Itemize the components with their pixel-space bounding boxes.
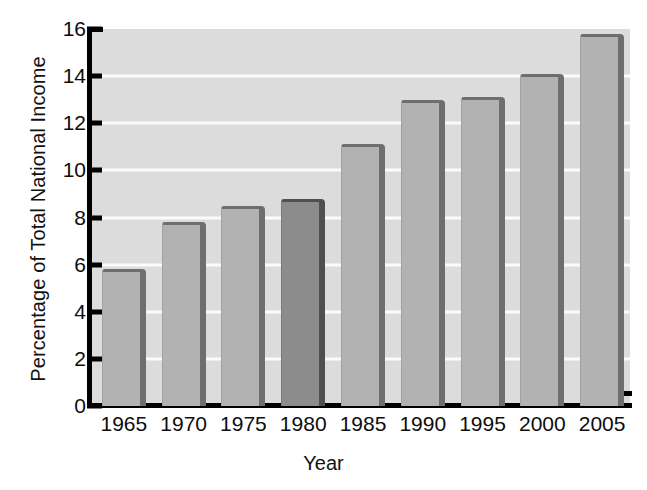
bar-1965 (102, 269, 146, 406)
x-axis-tick-label: 2005 (562, 412, 642, 436)
bar-chart-figure: Percentage of Total National Income 0246… (0, 0, 647, 490)
x-axis-title: Year (0, 452, 647, 475)
y-axis-tick-label: 8 (34, 206, 86, 230)
y-axis-tick-mark (87, 309, 102, 314)
y-axis-tick-mark (87, 74, 102, 79)
y-axis-tick-label: 6 (34, 253, 86, 277)
bar-1975 (221, 206, 265, 406)
bar-1990 (401, 100, 445, 406)
bar-1995 (461, 97, 505, 406)
y-axis-tick-label: 12 (34, 111, 86, 135)
bar-1980 (281, 199, 325, 406)
y-axis-tick-label: 14 (34, 64, 86, 88)
x-axis-tick-labels: 196519701975198019851990199520002005 (0, 412, 647, 442)
bar-1985 (341, 144, 385, 406)
y-axis-tick-mark (87, 27, 102, 32)
y-axis-tick-label: 4 (34, 300, 86, 324)
y-axis-tick-mark (87, 404, 102, 409)
bar-1970 (162, 222, 206, 406)
y-axis-tick-mark (87, 262, 102, 267)
y-axis-tick-mark (87, 168, 102, 173)
y-axis-tick-mark (87, 121, 102, 126)
y-axis-tick-label: 10 (34, 158, 86, 182)
y-axis-tick-mark (87, 356, 102, 361)
y-axis-tick-label: 2 (34, 347, 86, 371)
y-axis-tick-mark (87, 215, 102, 220)
bar-2000 (520, 74, 564, 406)
bar-2005 (580, 34, 624, 406)
y-axis-tick-label: 16 (34, 17, 86, 41)
